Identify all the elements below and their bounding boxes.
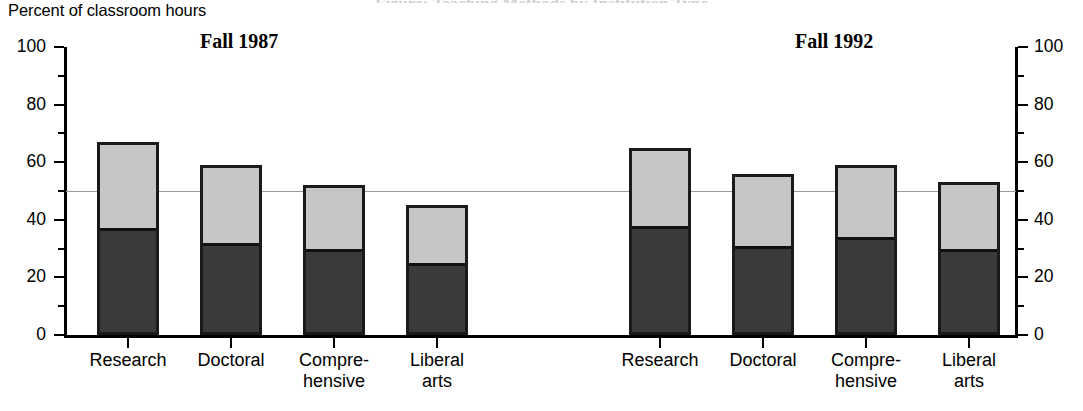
bar-fall-1987-research xyxy=(97,142,159,335)
bar-fall-1992-comprehensive xyxy=(835,165,897,335)
plot-area: 002020404060608080100100ResearchDoctoral… xyxy=(64,47,1018,337)
y-axis-label-right-20: 20 xyxy=(1034,268,1053,286)
bar-lower-segment xyxy=(941,249,997,332)
y-minor-tick-right-10 xyxy=(1018,305,1024,307)
y-tick-right-0 xyxy=(1018,334,1028,336)
x-tick xyxy=(436,338,438,348)
y-minor-tick-right-50 xyxy=(1018,190,1024,192)
x-tick xyxy=(333,338,335,348)
y-tick-right-40 xyxy=(1018,219,1028,221)
chart-container: Figure: Teaching Methods by Institution … xyxy=(0,0,1083,411)
bar-fall-1987-comprehensive xyxy=(303,185,365,335)
y-tick-left-60 xyxy=(54,161,64,163)
y-minor-tick-right-90 xyxy=(1018,75,1024,77)
y-tick-left-40 xyxy=(54,219,64,221)
y-tick-right-100 xyxy=(1018,46,1028,48)
y-axis-left-spine xyxy=(64,47,67,338)
bar-lower-segment xyxy=(632,226,688,332)
y-axis-label-right-0: 0 xyxy=(1034,326,1044,344)
bar-lower-segment xyxy=(100,228,156,332)
y-minor-tick-left-50 xyxy=(58,190,64,192)
bar-fall-1987-doctoral xyxy=(200,165,262,335)
y-axis-right-spine xyxy=(1015,47,1018,338)
y-tick-left-80 xyxy=(54,104,64,106)
x-tick xyxy=(762,338,764,348)
y-tick-right-60 xyxy=(1018,161,1028,163)
y-minor-tick-left-30 xyxy=(58,248,64,250)
y-tick-left-0 xyxy=(54,334,64,336)
y-minor-tick-right-30 xyxy=(1018,248,1024,250)
y-minor-tick-left-70 xyxy=(58,132,64,134)
bar-lower-segment xyxy=(409,263,465,332)
y-axis-caption: Percent of classroom hours xyxy=(8,1,206,20)
y-axis-label-left-20: 20 xyxy=(27,268,46,286)
bar-fall-1992-liberalarts xyxy=(938,182,1000,335)
bar-lower-segment xyxy=(735,246,791,332)
bar-lower-segment xyxy=(838,237,894,332)
y-axis-label-left-80: 80 xyxy=(27,96,46,114)
y-tick-right-20 xyxy=(1018,276,1028,278)
y-minor-tick-left-10 xyxy=(58,305,64,307)
bar-lower-segment xyxy=(203,243,259,332)
y-axis-label-left-0: 0 xyxy=(36,326,46,344)
x-tick xyxy=(865,338,867,348)
y-axis-label-left-100: 100 xyxy=(17,38,46,56)
y-axis-label-right-100: 100 xyxy=(1034,38,1063,56)
y-axis-label-right-40: 40 xyxy=(1034,211,1053,229)
y-tick-left-20 xyxy=(54,276,64,278)
y-minor-tick-left-90 xyxy=(58,75,64,77)
x-tick xyxy=(659,338,661,348)
y-tick-right-80 xyxy=(1018,104,1028,106)
x-tick xyxy=(127,338,129,348)
x-tick xyxy=(230,338,232,348)
bar-lower-segment xyxy=(306,249,362,332)
x-axis-spine xyxy=(64,335,1018,338)
y-axis-label-left-40: 40 xyxy=(27,211,46,229)
y-axis-label-right-80: 80 xyxy=(1034,96,1053,114)
x-tick xyxy=(968,338,970,348)
y-axis-label-left-60: 60 xyxy=(27,153,46,171)
bar-fall-1992-research xyxy=(629,148,691,335)
y-minor-tick-right-70 xyxy=(1018,132,1024,134)
x-axis-label-liberalarts: Liberal arts xyxy=(899,350,1039,392)
y-tick-left-100 xyxy=(54,46,64,48)
bar-fall-1992-doctoral xyxy=(732,174,794,335)
bar-fall-1987-liberalarts xyxy=(406,205,468,335)
x-axis-label-liberalarts: Liberal arts xyxy=(367,350,507,392)
y-axis-label-right-60: 60 xyxy=(1034,153,1053,171)
